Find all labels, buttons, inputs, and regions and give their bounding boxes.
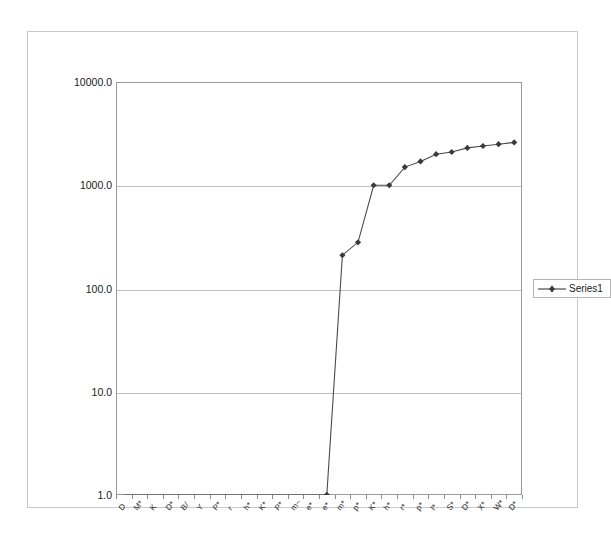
x-axis-tick-label: B/ xyxy=(179,501,191,513)
x-axis-tick-label: Y xyxy=(195,502,205,512)
y-axis-tick-label: 10000.0 xyxy=(74,77,112,87)
x-axis-tick-label: S* xyxy=(445,500,457,512)
x-axis-tick-label: X* xyxy=(476,500,488,512)
data-point-marker xyxy=(371,182,377,188)
x-axis-tick-label: h* xyxy=(242,501,254,513)
x-axis-labels: DM*KD*B/YP*rh*K*P*m~e*e*m*p*K*h*r*p*l*S*… xyxy=(28,498,579,538)
x-axis-tick-label: p* xyxy=(351,501,363,513)
data-point-marker xyxy=(464,145,470,151)
x-axis-tick-label: p* xyxy=(413,501,425,513)
x-axis-tick-label: D* xyxy=(460,500,473,513)
data-point-marker xyxy=(480,143,486,149)
x-axis-tick-label: D xyxy=(117,502,128,512)
legend-marker-icon xyxy=(538,284,566,294)
data-point-marker xyxy=(433,151,439,157)
data-point-marker xyxy=(511,139,517,145)
data-point-marker xyxy=(495,141,501,147)
x-axis-tick-label: P* xyxy=(273,500,285,512)
x-axis-tick-label: m~ xyxy=(288,498,302,512)
series-plot xyxy=(116,82,522,495)
y-axis-labels: 10000.01000.0100.010.01.0 xyxy=(28,32,112,509)
x-axis-tick-label: r xyxy=(226,504,235,512)
series-line xyxy=(124,142,514,495)
chart-legend[interactable]: Series1 xyxy=(533,279,611,298)
x-axis-tick-label: e* xyxy=(320,501,332,513)
x-axis-tick-label: M* xyxy=(132,499,145,512)
legend-entry-label: Series1 xyxy=(569,283,603,294)
x-axis-tick-label: r* xyxy=(398,502,409,512)
data-point-marker xyxy=(417,158,423,164)
chart-area: 10000.01000.0100.010.01.0 DM*KD*B/YP*rh*… xyxy=(27,31,578,508)
x-axis-tick-label: P* xyxy=(210,500,222,512)
y-axis-tick-label: 1000.0 xyxy=(80,180,112,190)
x-axis-tick-label: D* xyxy=(164,500,177,513)
data-point-marker xyxy=(449,149,455,155)
x-axis-tick-label: e* xyxy=(304,501,316,513)
y-axis-tick-label: 10.0 xyxy=(92,387,112,397)
x-axis-tick-label: D* xyxy=(507,500,520,513)
x-axis-tick-label: K xyxy=(148,502,158,512)
x-axis-tick-label: W* xyxy=(491,498,505,512)
x-axis-tick-label: K* xyxy=(257,500,269,512)
y-axis-tick-label: 100.0 xyxy=(86,284,112,294)
x-axis-tick-label: m* xyxy=(335,499,348,512)
x-axis-tick-label: h* xyxy=(382,501,394,513)
x-axis-tick-label: K* xyxy=(367,500,379,512)
x-axis-tick-label: l* xyxy=(429,503,439,513)
